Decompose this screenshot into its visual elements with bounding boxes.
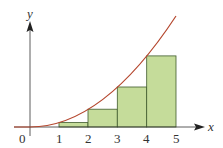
rect-1-2	[59, 123, 88, 127]
x-tick-2: 2	[85, 131, 92, 146]
rect-2-3	[88, 109, 117, 127]
rect-4-5	[147, 56, 176, 127]
x-axis-label: x	[207, 119, 214, 134]
origin-label: 0	[19, 131, 26, 146]
y-axis-label: y	[25, 6, 33, 21]
x-tick-5: 5	[173, 131, 180, 146]
x-tick-3: 3	[114, 131, 121, 146]
riemann-diagram: y x 0 1 2 3 4 5	[0, 0, 223, 148]
rect-3-4	[117, 87, 146, 127]
x-tick-1: 1	[56, 131, 63, 146]
x-tick-4: 4	[143, 131, 150, 146]
